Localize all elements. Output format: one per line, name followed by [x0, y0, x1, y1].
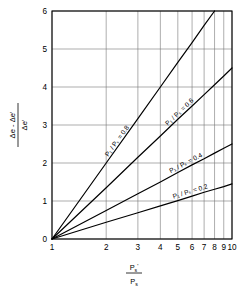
semilog-plot: P₁ / Pₛ = 0.8P₁ / Pₛ = 0.6P₁ / Pₛ = 0.4P… [0, 0, 250, 293]
y-tick-label: 1 [42, 197, 47, 206]
x-tick-label: 6 [190, 243, 195, 252]
x-tick-label: 9 [221, 243, 226, 252]
x-tick-label: 4 [158, 243, 163, 252]
y-tick-label: 3 [42, 121, 47, 130]
svg-text:Ps: Ps [130, 277, 138, 287]
x-tick-label: 5 [176, 243, 181, 252]
x-axis-tick-labels: 12345678910 [50, 243, 237, 252]
curve-label-group: P₁ / Pₛ = 0.4 [168, 151, 204, 174]
y-tick-label: 5 [42, 45, 47, 54]
x-axis-denominator-sub: s [135, 281, 138, 287]
y-tick-label: 0 [42, 235, 47, 244]
x-tick-label: 2 [104, 243, 109, 252]
curve-label: P₁ / Pₛ = 0.4 [168, 151, 204, 174]
y-axis-title: Δe - Δe' Δe' [8, 103, 29, 147]
curve-label-group: P₁ / Pₛ = 0.6 [164, 97, 195, 127]
y-tick-label: 4 [42, 83, 47, 92]
x-tick-label: 1 [50, 243, 55, 252]
y-tick-label: 6 [42, 7, 47, 16]
curve-label: P₁ / Pₛ = 0.8 [103, 124, 130, 158]
chart-figure: P₁ / Pₛ = 0.8P₁ / Pₛ = 0.6P₁ / Pₛ = 0.4P… [0, 0, 250, 293]
x-tick-label: 3 [136, 243, 141, 252]
curve-label-group: P₁ / Pₛ = 0.8 [103, 124, 130, 158]
curve-p1-ps-0-6 [52, 68, 232, 239]
x-tick-label: 10 [227, 243, 237, 252]
y-axis-tick-labels: 0123456 [42, 7, 47, 244]
y-tick-label: 2 [42, 159, 47, 168]
curve-label: P₁ / Pₛ = 0.6 [164, 97, 195, 127]
x-axis-numerator-prime: ' [137, 263, 138, 269]
x-tick-label: 7 [202, 243, 207, 252]
y-grid-lines [52, 11, 232, 239]
y-axis-denominator: Δe' [20, 119, 29, 130]
x-axis-title: Ps' Ps [126, 263, 142, 287]
x-tick-label: 8 [212, 243, 217, 252]
y-axis-numerator: Δe - Δe' [8, 111, 17, 138]
svg-text:Ps': Ps' [130, 263, 139, 273]
